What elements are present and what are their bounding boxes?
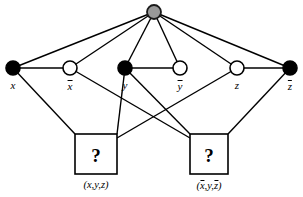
figure-canvas: ?(x,y,z)?(x,y,z)xxyyzz [0, 0, 303, 197]
node-y[interactable] [118, 61, 132, 75]
edge-layer [13, 12, 290, 138]
node-ybar[interactable] [173, 61, 187, 75]
node-label-xbar: x [68, 80, 73, 92]
edge-xbar-clause-2 [70, 68, 190, 138]
edge-x-clause-1 [13, 68, 75, 134]
edge-y-clause-1 [117, 68, 125, 134]
edge-apex-zbar [154, 12, 290, 68]
node-label-x: x [11, 80, 16, 91]
edge-apex-y [125, 12, 154, 68]
question-mark-glyph: ? [91, 146, 101, 165]
node-label-y: y [123, 80, 128, 91]
node-label-ybar: y [178, 80, 183, 92]
apex-node[interactable] [147, 5, 161, 19]
node-x[interactable] [6, 61, 20, 75]
clause-caption-clause-1: (x,y,z) [83, 180, 108, 191]
graph-svg [0, 0, 303, 197]
node-z[interactable] [230, 61, 244, 75]
node-xbar[interactable] [63, 61, 77, 75]
node-layer [6, 5, 297, 75]
question-mark-glyph: ? [204, 146, 214, 165]
clause-caption-clause-2: (x,y,z) [196, 180, 221, 192]
edge-zbar-clause-2 [228, 68, 290, 134]
node-zbar[interactable] [283, 61, 297, 75]
node-label-zbar: z [288, 80, 292, 92]
node-label-z: z [235, 80, 239, 91]
